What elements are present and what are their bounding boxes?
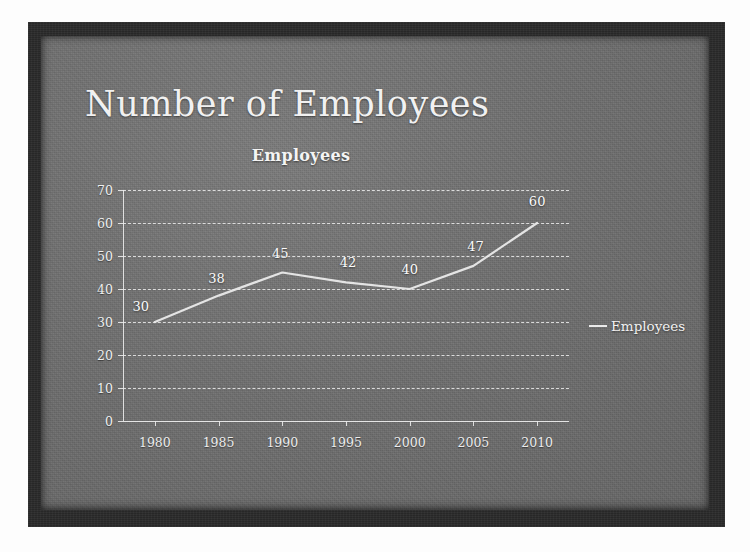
x-axis-tick bbox=[155, 421, 156, 426]
data-point-label: 30 bbox=[133, 299, 150, 314]
y-axis-tick bbox=[118, 421, 123, 422]
series-employees bbox=[123, 190, 569, 421]
x-axis-label: 2005 bbox=[458, 435, 490, 450]
data-point-label: 47 bbox=[467, 239, 484, 254]
data-point-label: 60 bbox=[529, 194, 546, 209]
x-axis-label: 2010 bbox=[521, 435, 553, 450]
chart-legend: Employees bbox=[589, 318, 685, 334]
screenshot-root: Number of Employees Employees 7060504030… bbox=[0, 0, 750, 552]
x-axis-tick bbox=[473, 421, 474, 426]
data-point-label: 38 bbox=[208, 271, 225, 286]
y-axis-label: 20 bbox=[97, 348, 113, 363]
x-axis-tick bbox=[346, 421, 347, 426]
chart-plot-area: 7060504030201001980198519901995200020052… bbox=[123, 190, 569, 421]
x-axis-label: 1995 bbox=[330, 435, 362, 450]
legend-line-icon bbox=[589, 325, 607, 327]
slide-frame: Number of Employees Employees 7060504030… bbox=[28, 22, 725, 527]
legend-item-label: Employees bbox=[611, 318, 685, 334]
x-axis-label: 1980 bbox=[139, 435, 171, 450]
x-axis-tick bbox=[219, 421, 220, 426]
y-axis-label: 50 bbox=[97, 249, 113, 264]
slide-canvas: Number of Employees Employees 7060504030… bbox=[41, 36, 709, 510]
y-axis-label: 0 bbox=[105, 414, 113, 429]
x-axis-tick bbox=[282, 421, 283, 426]
employees-line-chart: Employees 706050403020100198019851990199… bbox=[41, 36, 709, 510]
x-axis-label: 2000 bbox=[394, 435, 426, 450]
chart-title: Employees bbox=[41, 146, 561, 165]
x-axis-tick bbox=[410, 421, 411, 426]
y-axis-label: 60 bbox=[97, 216, 113, 231]
data-point-label: 45 bbox=[272, 246, 289, 261]
data-point-label: 42 bbox=[340, 255, 357, 270]
data-point-label: 40 bbox=[401, 262, 418, 277]
x-axis-tick bbox=[537, 421, 538, 426]
x-axis-label: 1990 bbox=[266, 435, 298, 450]
y-axis-label: 10 bbox=[97, 381, 113, 396]
y-axis-label: 70 bbox=[97, 183, 113, 198]
y-axis-label: 30 bbox=[97, 315, 113, 330]
y-axis-label: 40 bbox=[97, 282, 113, 297]
x-axis-label: 1985 bbox=[203, 435, 235, 450]
